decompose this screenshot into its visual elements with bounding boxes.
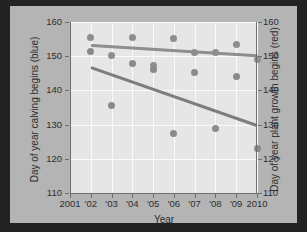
y-tick-label-right: 160 — [263, 17, 279, 27]
y-tick-label-left: 110 — [28, 188, 62, 198]
y-tick-left — [65, 90, 69, 91]
data-point — [87, 48, 94, 55]
y-tick-label-left: 150 — [28, 51, 62, 61]
data-point — [170, 130, 177, 137]
y-tick-label-right: 130 — [263, 120, 279, 130]
y-axis-right-title: Day of year plant growth begins (red) — [269, 20, 280, 200]
x-axis-title: Year — [70, 214, 258, 225]
gridline-horizontal — [70, 125, 257, 126]
y-axis-right-line — [256, 22, 257, 194]
y-axis-left-line — [70, 22, 71, 194]
data-point — [108, 102, 115, 109]
y-tick-label-left: 120 — [28, 154, 62, 164]
y-tick-left — [65, 22, 69, 23]
y-tick-right — [258, 90, 262, 91]
y-axis-left-title: Day of year calving begins (blue) — [29, 20, 40, 200]
data-point — [129, 60, 136, 67]
plot-area — [70, 22, 257, 193]
y-tick-right — [258, 159, 262, 160]
y-tick-left — [65, 193, 69, 194]
y-tick-label-right: 120 — [263, 154, 279, 164]
gridline-horizontal — [70, 22, 257, 23]
x-tick-label: 2010 — [240, 199, 274, 209]
data-point — [191, 49, 198, 56]
data-point — [129, 34, 136, 41]
data-point — [170, 35, 177, 42]
y-tick-label-right: 140 — [263, 85, 279, 95]
y-tick-label-left: 160 — [28, 17, 62, 27]
y-tick-left — [65, 125, 69, 126]
data-point — [150, 66, 157, 73]
gridline-vertical — [195, 22, 196, 193]
y-tick-left — [65, 159, 69, 160]
y-tick-label-right: 110 — [263, 188, 278, 198]
y-tick-right — [258, 22, 262, 23]
gridline-horizontal — [70, 159, 257, 160]
data-point — [212, 125, 219, 132]
y-tick-label-left: 140 — [28, 85, 62, 95]
data-point — [108, 52, 115, 59]
gridline-vertical — [174, 22, 175, 193]
gridline-horizontal — [70, 56, 257, 57]
data-point — [191, 69, 198, 76]
figure: Year Day of year calving begins (blue) D… — [10, 6, 297, 223]
x-axis-line — [70, 193, 258, 194]
data-point — [233, 41, 240, 48]
y-tick-right — [258, 125, 262, 126]
y-tick-right — [258, 56, 262, 57]
data-point — [233, 73, 240, 80]
y-tick-right — [258, 193, 262, 194]
gridline-vertical — [215, 22, 216, 193]
y-tick-left — [65, 56, 69, 57]
data-point — [87, 34, 94, 41]
y-tick-label-right: 150 — [263, 51, 279, 61]
y-tick-label-left: 130 — [28, 120, 62, 130]
